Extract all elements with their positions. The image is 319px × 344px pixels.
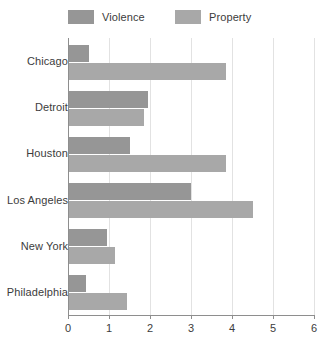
x-axis-tick-label: 6 — [311, 322, 317, 334]
bar-property-houston — [68, 155, 226, 172]
x-axis-tick-label: 5 — [270, 322, 276, 334]
bar-chart: Violence Property 0123456 ChicagoDetroit… — [0, 0, 319, 344]
bar-violence-houston — [68, 137, 130, 154]
x-axis-tick-label: 4 — [229, 322, 235, 334]
gridline — [232, 38, 233, 315]
bar-violence-detroit — [68, 91, 148, 108]
legend-swatch-property — [175, 10, 201, 24]
x-axis-tick — [314, 315, 315, 319]
x-axis-tick — [150, 315, 151, 319]
x-axis-tick-label: 2 — [147, 322, 153, 334]
y-axis-label-los-angeles: Los Angeles — [0, 194, 68, 206]
x-axis-tick — [273, 315, 274, 319]
y-axis-label-new-york: New York — [0, 240, 68, 252]
y-axis-line — [68, 38, 69, 316]
x-axis-tick-label: 3 — [188, 322, 194, 334]
x-axis-tick-label: 0 — [65, 322, 71, 334]
bar-violence-los-angeles — [68, 183, 191, 200]
bar-property-los-angeles — [68, 201, 253, 218]
y-axis-label-detroit: Detroit — [0, 101, 68, 113]
bar-property-chicago — [68, 63, 226, 80]
legend-swatch-violence — [68, 10, 94, 24]
x-axis-tick — [109, 315, 110, 319]
bar-violence-chicago — [68, 45, 89, 62]
bar-property-detroit — [68, 109, 144, 126]
bar-property-new-york — [68, 247, 115, 264]
legend-item-violence: Violence — [68, 8, 145, 26]
gridline — [314, 38, 315, 315]
x-axis-tick — [232, 315, 233, 319]
x-axis-tick — [191, 315, 192, 319]
chart-legend: Violence Property — [0, 8, 319, 30]
plot-area — [68, 38, 314, 315]
bar-violence-philadelphia — [68, 275, 86, 292]
gridline — [273, 38, 274, 315]
y-axis-label-houston: Houston — [0, 147, 68, 159]
legend-item-property: Property — [175, 8, 251, 26]
legend-label-property: Property — [209, 11, 251, 23]
x-axis-tick-label: 1 — [106, 322, 112, 334]
legend-label-violence: Violence — [102, 11, 145, 23]
x-axis-tick — [68, 315, 69, 319]
y-axis-label-chicago: Chicago — [0, 55, 68, 67]
bar-violence-new-york — [68, 229, 107, 246]
y-axis-label-philadelphia: Philadelphia — [0, 286, 68, 298]
bar-property-philadelphia — [68, 293, 127, 310]
